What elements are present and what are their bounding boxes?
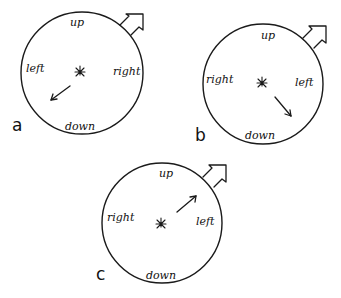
panel-b-star-icon bbox=[257, 77, 267, 87]
panel-a-label-up: up bbox=[70, 16, 84, 29]
panel-b-label-up: up bbox=[261, 29, 275, 42]
panel-c-star-icon bbox=[156, 218, 166, 228]
panel-b-outward-arrow-icon bbox=[303, 26, 326, 48]
panel-c-label-up: up bbox=[159, 167, 173, 180]
panel-c-caption: c bbox=[96, 264, 105, 284]
panel-b-inner-arrow-icon bbox=[275, 97, 291, 116]
panel-b-label-down: down bbox=[245, 129, 275, 142]
panel-c-label-down: down bbox=[146, 269, 176, 282]
panel-b-label-left: left bbox=[295, 76, 314, 89]
three-panel-direction-diagram: up left right down a up right left down … bbox=[0, 0, 341, 298]
panel-a-star-icon bbox=[75, 66, 85, 76]
panel-c-label-right: right bbox=[107, 211, 135, 224]
panel-a-outward-arrow-icon bbox=[120, 14, 143, 35]
panel-a-label-down: down bbox=[65, 120, 95, 133]
panel-c: up right left down c bbox=[96, 163, 226, 284]
panel-a-inner-arrow-icon bbox=[51, 86, 70, 100]
panel-a: up left right down a bbox=[12, 12, 143, 135]
panel-a-label-right: right bbox=[113, 65, 141, 78]
panel-c-label-left: left bbox=[196, 215, 215, 228]
panel-c-inner-arrow-icon bbox=[177, 196, 196, 212]
panel-a-caption: a bbox=[12, 115, 22, 135]
panel-b-caption: b bbox=[195, 125, 206, 145]
panel-b-label-right: right bbox=[206, 73, 234, 86]
panel-a-label-left: left bbox=[26, 62, 45, 75]
panel-b: up right left down b bbox=[195, 24, 326, 145]
